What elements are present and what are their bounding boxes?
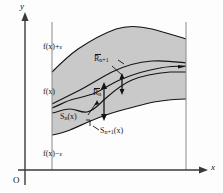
label-partial-sum-n-plus-1: Sn+1(x): [100, 127, 123, 135]
overline-bar: [95, 54, 101, 55]
label-remainder-n-plus-1: Rn+1: [94, 55, 109, 63]
x-axis-label: x: [211, 163, 215, 172]
partial-sum-n-plus-1-leader: [93, 126, 99, 130]
label-upper-bound-eps: ε: [60, 43, 63, 50]
label-remainder-n-plus-1-sub: n+1: [99, 57, 108, 63]
label-remainder-n-base-wrap: R: [93, 89, 98, 97]
label-remainder-n-plus-1-base: R: [94, 54, 99, 63]
label-remainder-n: Rn: [93, 89, 101, 97]
y-axis-arrowhead: [22, 12, 29, 21]
label-remainder-n-sub: n: [98, 91, 101, 97]
origin-label: O: [13, 176, 20, 185]
label-center-curve: f(x): [43, 88, 55, 96]
label-partial-sum-n: Sn(x): [60, 113, 77, 121]
label-partial-sum-n-arg: (x): [67, 112, 76, 121]
uniform-convergence-diagram: [0, 0, 223, 193]
y-axis-label: y: [20, 2, 24, 11]
label-lower-bound: f(x)−ε: [43, 150, 62, 158]
label-center-curve-fn: f(x): [43, 87, 55, 96]
overline-bar: [94, 88, 100, 89]
label-partial-sum-n-plus-1-sub: n+1: [104, 129, 113, 135]
label-lower-bound-eps: ε: [60, 150, 63, 157]
x-axis-arrowhead: [199, 167, 208, 174]
label-remainder-n-base: R: [93, 88, 98, 97]
label-upper-bound-fn: f(x): [43, 42, 55, 51]
label-partial-sum-n-plus-1-arg: (x): [114, 126, 123, 135]
label-remainder-n-plus-1-base-wrap: R: [94, 55, 99, 63]
label-lower-bound-fn: f(x): [43, 149, 55, 158]
label-upper-bound: f(x)+ε: [43, 43, 62, 51]
figure-container: y x O f(x)+ε f(x) f(x)−ε Rn Rn+1 Sn(x) S…: [0, 0, 223, 193]
